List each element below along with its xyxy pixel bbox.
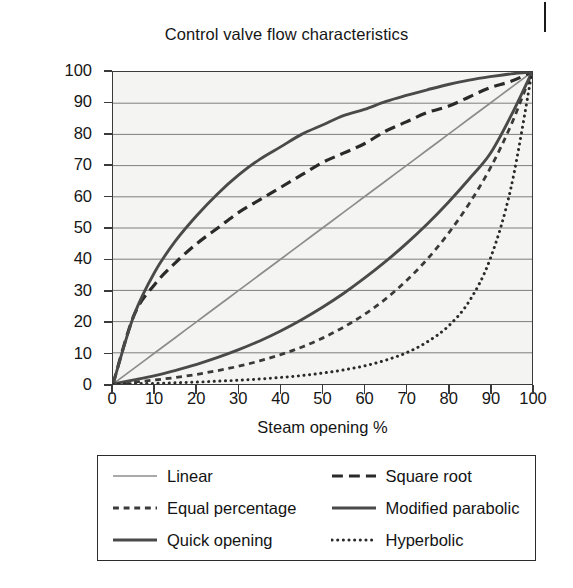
y-tick-label: 30 xyxy=(46,282,92,299)
x-tick-mark xyxy=(280,385,282,394)
legend-label: Quick opening xyxy=(167,531,273,550)
y-tick-label: 40 xyxy=(46,250,92,267)
x-axis-title: Steam opening % xyxy=(112,418,533,437)
y-tick-mark xyxy=(104,227,112,229)
y-tick-label: 0 xyxy=(46,376,92,393)
y-tick-mark xyxy=(104,259,112,261)
chart-title: Control valve flow characteristics xyxy=(0,25,573,44)
legend-item-linear[interactable]: Linear xyxy=(98,460,317,492)
legend-swatch-icon xyxy=(112,501,158,515)
y-tick-mark xyxy=(104,133,112,135)
y-tick-mark xyxy=(104,164,112,166)
figure-page: Control valve flow characteristics Flow … xyxy=(0,0,573,588)
legend-item-equal-percentage[interactable]: Equal percentage xyxy=(98,492,317,524)
x-tick-mark xyxy=(153,385,155,394)
x-tick-mark xyxy=(448,385,450,394)
legend-item-modified-parabolic[interactable]: Modified parabolic xyxy=(317,492,536,524)
y-tick-label: 50 xyxy=(46,219,92,236)
y-tick-mark xyxy=(104,321,112,323)
legend-swatch-icon xyxy=(331,469,377,483)
y-tick-mark xyxy=(104,290,112,292)
plot-area xyxy=(112,71,533,385)
y-tick-label: 20 xyxy=(46,313,92,330)
legend-item-quick-opening[interactable]: Quick opening xyxy=(98,524,317,556)
y-tick-mark xyxy=(104,70,112,72)
chart-legend: LinearSquare rootEqual percentageModifie… xyxy=(97,455,536,561)
y-tick-label: 60 xyxy=(46,188,92,205)
x-tick-mark xyxy=(111,385,113,394)
x-tick-mark xyxy=(490,385,492,394)
y-tick-mark xyxy=(104,353,112,355)
legend-label: Hyperbolic xyxy=(386,531,464,550)
y-tick-label: 100 xyxy=(46,62,92,79)
legend-item-square-root[interactable]: Square root xyxy=(317,460,536,492)
y-tick-mark xyxy=(104,102,112,104)
chart-curves xyxy=(113,72,532,384)
x-tick-mark xyxy=(238,385,240,394)
x-tick-mark xyxy=(195,385,197,394)
y-tick-label: 10 xyxy=(46,345,92,362)
y-tick-label: 70 xyxy=(46,156,92,173)
legend-label: Modified parabolic xyxy=(386,499,520,518)
x-tick-mark xyxy=(322,385,324,394)
y-tick-mark xyxy=(104,196,112,198)
legend-swatch-icon xyxy=(112,469,158,483)
legend-swatch-icon xyxy=(112,533,158,547)
legend-item-hyperbolic[interactable]: Hyperbolic xyxy=(317,524,536,556)
x-tick-mark xyxy=(364,385,366,394)
legend-label: Linear xyxy=(167,467,213,486)
x-tick-mark xyxy=(406,385,408,394)
y-tick-label: 90 xyxy=(46,93,92,110)
legend-label: Square root xyxy=(386,467,472,486)
legend-swatch-icon xyxy=(331,533,377,547)
legend-swatch-icon xyxy=(331,501,377,515)
legend-label: Equal percentage xyxy=(167,499,296,518)
y-tick-label: 80 xyxy=(46,125,92,142)
x-tick-mark xyxy=(532,385,534,394)
